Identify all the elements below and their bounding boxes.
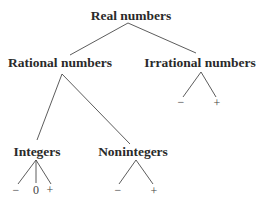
leaf-integers-positive: +: [47, 183, 54, 197]
edge-irrational-pos: [201, 72, 216, 97]
leaf-integers-zero: 0: [33, 183, 39, 197]
edges: [18, 23, 216, 184]
node-nonintegers: Nonintegers: [98, 144, 168, 159]
node-integers: Integers: [13, 144, 60, 159]
node-irrational-numbers: Irrational numbers: [144, 55, 255, 70]
edge-rational-nonintegers: [62, 74, 130, 144]
leaf-integers-negative: −: [13, 183, 20, 197]
node-rational-numbers: Rational numbers: [8, 55, 112, 70]
leaf-irrational-negative: −: [178, 95, 185, 109]
edge-rational-integers: [37, 74, 62, 140]
node-real-numbers: Real numbers: [91, 8, 172, 23]
edge-nonintegers-neg: [119, 160, 136, 184]
edge-real-irrational: [128, 23, 196, 53]
number-tree-diagram: Real numbers Rational numbers Irrational…: [0, 0, 259, 204]
leaf-irrational-positive: +: [214, 96, 221, 110]
leaf-nonintegers-negative: −: [115, 183, 122, 197]
leaf-nonintegers-positive: +: [151, 184, 158, 198]
edge-integers-pos: [36, 160, 51, 184]
edge-nonintegers-pos: [136, 160, 153, 184]
edge-integers-neg: [18, 160, 36, 184]
edge-real-rational: [70, 23, 128, 55]
edge-irrational-neg: [183, 72, 201, 97]
